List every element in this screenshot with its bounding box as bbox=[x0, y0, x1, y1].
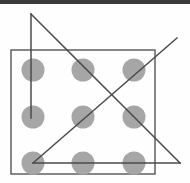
descending-diagonal bbox=[31, 14, 180, 163]
nine-dot-diagram bbox=[0, 0, 190, 183]
dot-r2c2 bbox=[72, 106, 95, 129]
dot-r1c3 bbox=[123, 59, 146, 82]
dot-r1c1 bbox=[22, 59, 45, 82]
figure-canvas: Nine-dot puzzle with four connected line… bbox=[0, 0, 190, 183]
dot-r2c1 bbox=[22, 106, 45, 129]
solution-lines bbox=[31, 14, 180, 163]
dot-r1c2 bbox=[72, 59, 95, 82]
